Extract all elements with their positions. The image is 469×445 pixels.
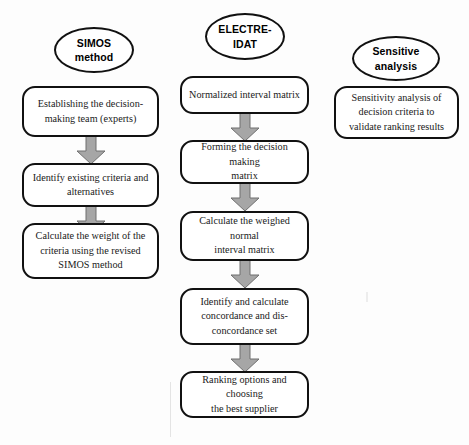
identify-criteria-line2: alternatives [33,185,149,199]
calculate-weight-line2: criteria using the revised [36,244,146,258]
calculate-weight-line1: Calculate the weight of the [36,229,146,243]
sensitive-analysis-ellipse[interactable]: Sensitive analysis [352,36,440,81]
normalized-matrix-line1: Normalized interval matrix [189,88,300,102]
arrow-electre-1 [230,113,260,142]
electre-ellipse-line1: ELECTRE- [212,22,277,36]
arrow-electre-2 [230,183,260,212]
sensitivity-analysis-box[interactable]: Sensitivity analysis of decision criteri… [334,86,459,139]
simos-method-ellipse[interactable]: SIMOS method [54,27,134,73]
weighed-matrix-line2: interval matrix [189,243,300,257]
sensitive-ellipse-line1: Sensitive [366,44,425,58]
sensitivity-line1: Sensitivity analysis of [349,91,444,105]
ranking-options-line1: Ranking options and choosing [189,373,300,402]
forming-matrix-line1: Forming the decision making [189,140,300,169]
establishing-team-line2: making team (experts) [38,112,143,126]
sensitive-ellipse-line2: analysis [366,59,425,73]
establishing-team-box[interactable]: Establishing the decision- making team (… [22,86,159,137]
concordance-line3: concordance set [200,324,288,338]
forming-decision-matrix-box[interactable]: Forming the decision making matrix [180,140,309,184]
identify-criteria-line1: Identify existing criteria and [33,171,149,185]
weighed-matrix-line1: Calculate the weighed normal [189,214,300,243]
calculate-weight-box[interactable]: Calculate the weight of the criteria usi… [22,223,159,279]
electre-ellipse-line2: IDAT [212,37,277,51]
electre-idat-ellipse[interactable]: ELECTRE- IDAT [205,13,285,60]
weighed-normal-matrix-box[interactable]: Calculate the weighed normal interval ma… [180,211,309,261]
scan-artifact-mark [366,292,368,302]
normalized-interval-matrix-box[interactable]: Normalized interval matrix [180,76,309,114]
sensitivity-line3: validate ranking results [349,120,444,134]
ranking-options-line2: the best supplier [189,402,300,416]
identify-criteria-box[interactable]: Identify existing criteria and alternati… [22,163,159,207]
concordance-line1: Identify and calculate [200,295,288,309]
arrow-electre-3 [230,260,260,289]
arrow-electre-4 [230,344,260,373]
flowchart-canvas: SIMOS method Establishing the decision- … [0,0,469,445]
scan-artifact-line [170,382,171,437]
concordance-line2: concordance and dis- [200,309,288,323]
forming-matrix-line2: matrix [189,169,300,183]
arrow-simos-1 [76,136,106,165]
simos-ellipse-line1: SIMOS [69,36,120,50]
calculate-weight-line3: SIMOS method [36,258,146,272]
concordance-set-box[interactable]: Identify and calculate concordance and d… [180,288,309,345]
simos-ellipse-line2: method [69,50,120,64]
ranking-options-box[interactable]: Ranking options and choosing the best su… [180,371,309,418]
establishing-team-line1: Establishing the decision- [38,97,143,111]
sensitivity-line2: decision criteria to [349,105,444,119]
